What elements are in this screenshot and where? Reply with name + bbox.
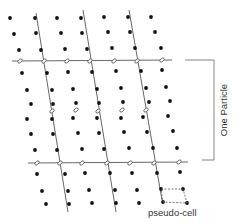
lattice-dot (114, 201, 118, 205)
lattice-dot (160, 68, 164, 72)
lattice-dot (114, 69, 118, 73)
lattice-dot (171, 129, 175, 133)
lattice-dot (126, 15, 130, 19)
lattice-dot (119, 86, 123, 90)
lattice-dot (39, 48, 43, 52)
lattice-dot (63, 172, 67, 176)
lattice-dot (130, 171, 134, 175)
lattice-dot (113, 188, 117, 192)
lattice-dot (110, 46, 114, 50)
lattice-dot (87, 188, 91, 192)
lattice-dot (166, 114, 170, 118)
lattice-dot (40, 189, 44, 193)
lattice-dot (50, 88, 54, 92)
lattice-dot (121, 100, 125, 104)
lattice-dot (44, 202, 48, 206)
lattice-dot (108, 171, 112, 175)
lattice-dot (12, 32, 16, 36)
lattice-dot (51, 102, 55, 106)
lattice-dot (59, 31, 63, 35)
lattice-dot (122, 130, 126, 134)
lattice-dot (139, 69, 143, 73)
lattice-dot (25, 88, 29, 92)
lattice-dot (33, 148, 37, 152)
lattice-dot (119, 116, 123, 120)
lattice-dot (128, 30, 132, 34)
lattice-dot (90, 70, 94, 74)
lattice-dot (55, 148, 59, 152)
lattice-dot (80, 147, 84, 151)
lattice-dot (164, 85, 168, 89)
lattice-dot (144, 86, 148, 90)
lattice-dot (106, 30, 110, 34)
lattice-dot (95, 116, 99, 120)
lattice-dot (29, 132, 33, 136)
lattice-dot (20, 71, 24, 75)
lattice-dot (71, 87, 75, 91)
lattice-dot (102, 147, 106, 151)
lattice-dot (145, 130, 149, 134)
lattice-dot (17, 48, 21, 52)
lattice-dot (153, 30, 157, 34)
lattice-dot (102, 15, 106, 19)
lattice-dot (175, 146, 179, 150)
lattice-dot (45, 71, 49, 75)
lattice-dot (29, 102, 33, 106)
lattice-dot (51, 132, 55, 136)
lattice-dot (66, 70, 70, 74)
lattice-dot (33, 16, 37, 20)
lattice-dot (178, 170, 182, 174)
lattice-dot (95, 87, 99, 91)
lattice-dot (66, 189, 70, 193)
lattice-dot (8, 16, 12, 20)
lattice-dot (80, 31, 84, 35)
lattice-dot (63, 47, 67, 51)
lattice-diagram: One Particle pseudo-cell (0, 0, 235, 224)
pseudo-cell-label: pseudo-cell (148, 207, 197, 218)
lattice-dot (83, 171, 87, 175)
lattice-dot (159, 46, 163, 50)
lattice-dot (25, 117, 29, 121)
lattice-dot (133, 46, 137, 50)
lattice-dot (137, 201, 141, 205)
lattice-dot (155, 171, 159, 175)
lattice-dot (97, 101, 101, 105)
lattice-dot (74, 101, 78, 105)
lattice-dot (135, 188, 139, 192)
lattice-dot (90, 201, 94, 205)
lattice-dot (97, 131, 101, 135)
lattice-dot (67, 202, 71, 206)
lattice-dot (50, 117, 54, 121)
lattice-dot (151, 146, 155, 150)
lattice-dot (168, 99, 172, 103)
lattice-dot (34, 31, 38, 35)
lattice-dot (149, 15, 153, 19)
lattice-dot (147, 100, 151, 104)
lattice-dot (55, 16, 59, 20)
lattice-dot (79, 16, 83, 20)
lattice-dot (141, 115, 145, 119)
lattice-dot (127, 146, 131, 150)
one-particle-label: One Particle (218, 84, 229, 136)
lattice-dot (76, 131, 80, 135)
lattice-dot (35, 172, 39, 176)
lattice-dot (85, 47, 89, 51)
lattice-dot (71, 116, 75, 120)
